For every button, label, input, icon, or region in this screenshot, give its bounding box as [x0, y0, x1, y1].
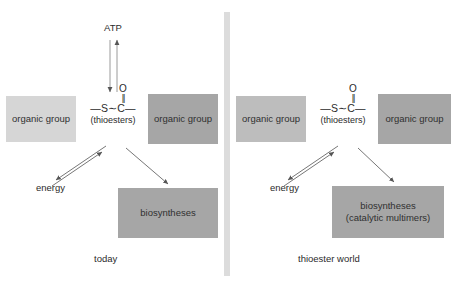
atp-label: ATP	[104, 22, 122, 33]
panel-thioester-world: organic group O || —S∼C— (thioesters) or…	[230, 0, 457, 287]
thioester-right-organic-group-label: organic group	[385, 113, 443, 125]
thioester-biosyntheses-box: biosyntheses (catalytic multimers)	[332, 186, 444, 238]
today-left-organic-group-label: organic group	[12, 113, 70, 125]
thioester-biosyntheses-line1: biosyntheses	[360, 200, 415, 211]
thioester-backbone-label: —S∼C—	[304, 103, 382, 114]
today-right-organic-group-label: organic group	[154, 113, 212, 125]
today-biosyntheses-box: biosyntheses	[118, 188, 218, 238]
thioester-caption: thioester world	[298, 253, 360, 264]
thioester-biosyntheses-line2: (catalytic multimers)	[346, 212, 430, 223]
today-thioester-formula: O || —S∼C— (thioesters)	[74, 84, 152, 125]
thioester-sublabel: (thioesters)	[74, 116, 152, 125]
today-caption: today	[94, 253, 117, 264]
double-bond-icon: ||	[94, 94, 152, 102]
thioester-backbone-label: —S∼C—	[74, 103, 152, 114]
thioester-formula: O || —S∼C— (thioesters)	[304, 84, 382, 125]
today-right-organic-group: organic group	[148, 94, 218, 144]
thioester-right-organic-group: organic group	[378, 94, 451, 144]
today-left-organic-group: organic group	[6, 96, 76, 142]
thioester-biosyntheses-text: biosyntheses (catalytic multimers)	[346, 200, 430, 224]
thioester-diagram: ATP organic group O || —S∼C— (thioesters…	[0, 0, 457, 287]
panel-today: ATP organic group O || —S∼C— (thioesters…	[0, 0, 224, 287]
thioester-left-organic-group-label: organic group	[242, 113, 300, 125]
thioester-energy-label: energy	[270, 182, 299, 193]
thioester-sublabel: (thioesters)	[304, 116, 382, 125]
today-energy-label: energy	[36, 182, 65, 193]
thioester-left-organic-group: organic group	[236, 96, 306, 142]
double-bond-icon: ||	[324, 94, 382, 102]
today-biosyntheses-label: biosyntheses	[140, 207, 195, 219]
